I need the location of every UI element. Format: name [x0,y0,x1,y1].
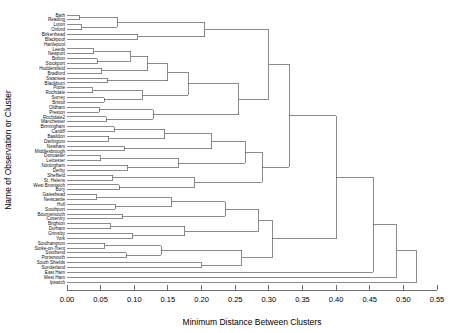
axis-tick-label: 0.50 [396,295,411,304]
dendrogram-svg: BathReadingLutonOxfordBirkenheadBlackpoo… [0,0,457,333]
leaf-label-group: BathReadingLutonOxfordBirkenheadBlackpoo… [33,13,66,285]
axis-tick-label: 0.20 [194,295,209,304]
y-axis-title: Name of Observation or Cluster [3,90,13,210]
axis-ticks: 0.000.050.100.150.200.250.300.350.400.45… [60,285,445,304]
axis-tick-label: 0.25 [228,295,243,304]
axis-tick-label: 0.55 [430,295,445,304]
x-axis-title: Minimum Distance Between Clusters [183,317,322,327]
axis-tick-label: 0.10 [127,295,142,304]
axis-tick-label: 0.30 [262,295,277,304]
axis-tick-label: 0.00 [60,295,75,304]
leaf-label: Ipswich [50,280,66,285]
axis-tick-label: 0.45 [362,295,377,304]
axis-tick-label: 0.05 [93,295,108,304]
dendrogram-figure: { "figure": { "type": "dendrogram", "xla… [0,0,457,333]
x-axis: 0.000.050.100.150.200.250.300.350.400.45… [60,285,445,304]
axis-tick-label: 0.15 [161,295,176,304]
dendrogram-links [67,15,417,282]
axis-tick-label: 0.35 [295,295,310,304]
axis-tick-label: 0.40 [329,295,344,304]
